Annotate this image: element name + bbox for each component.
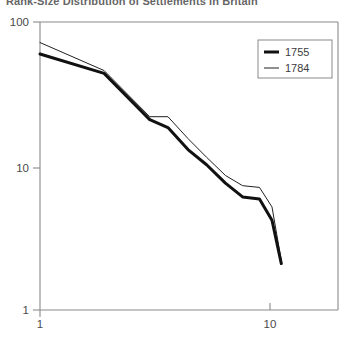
legend-label-1784: 1784 bbox=[285, 62, 309, 74]
series-line-1755 bbox=[40, 54, 281, 264]
legend[interactable]: 1755 1784 bbox=[258, 40, 332, 78]
y-tick-label-1: 1 bbox=[23, 304, 29, 316]
x-tick-label-1: 1 bbox=[37, 318, 43, 330]
series-line-1784 bbox=[40, 43, 281, 261]
x-tick-label-10: 10 bbox=[264, 318, 277, 330]
legend-label-1755: 1755 bbox=[285, 46, 309, 58]
y-tick-label-10: 10 bbox=[16, 162, 29, 174]
chart-canvas: 100 10 1 1 10 1755 1784 bbox=[0, 0, 354, 350]
chart-root: Rank-Size Distribution of Settlements in… bbox=[0, 0, 354, 350]
y-axis-ticks bbox=[33, 22, 40, 310]
y-tick-label-100: 100 bbox=[10, 16, 29, 28]
